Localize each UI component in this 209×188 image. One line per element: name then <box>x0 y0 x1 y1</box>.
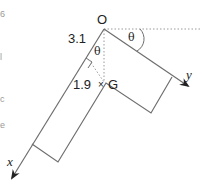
x-axis-label: x <box>6 154 13 169</box>
left-edge-fragment: e <box>0 120 5 130</box>
angle-theta-inner-label: θ <box>94 45 101 58</box>
x-axis <box>12 29 104 178</box>
angle-arc-horizontal <box>137 29 144 51</box>
left-edge-fragment: c <box>0 94 5 104</box>
centre-marker-icon: × <box>98 79 104 90</box>
centre-of-mass-label: G <box>108 77 118 92</box>
y-axis-label: y <box>184 67 192 82</box>
origin-label: O <box>97 12 107 27</box>
left-edge-fragment: 6 <box>0 9 5 19</box>
lamina-diagram: O 3.1 θ 1.9 × G θ y x <box>0 0 209 188</box>
angle-theta-horizontal-label: θ <box>128 31 135 44</box>
length-3-1-label: 3.1 <box>68 31 86 46</box>
left-edge-fragment: l <box>0 52 2 62</box>
length-1-9-label: 1.9 <box>73 77 91 92</box>
